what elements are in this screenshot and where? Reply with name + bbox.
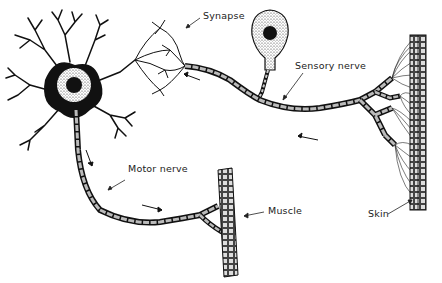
- label-muscle: Muscle: [268, 205, 302, 216]
- label-motor-nerve: Motor nerve: [128, 163, 188, 174]
- skin-nerve-endings: [392, 40, 412, 195]
- synapse-terminals: [135, 20, 185, 96]
- label-synapse: Synapse: [203, 10, 245, 21]
- skin-layer: [410, 35, 426, 210]
- label-sensory-nerve: Sensory nerve: [295, 60, 366, 71]
- reflex-arc-diagram: [0, 0, 442, 283]
- label-skin: Skin: [368, 208, 389, 219]
- motor-neuron-cell-body: [44, 62, 102, 118]
- muscle-fiber: [218, 168, 238, 277]
- sensory-cell-body: [252, 10, 288, 100]
- direction-arrows: [86, 72, 318, 212]
- sensory-nerve-axon: [185, 66, 400, 145]
